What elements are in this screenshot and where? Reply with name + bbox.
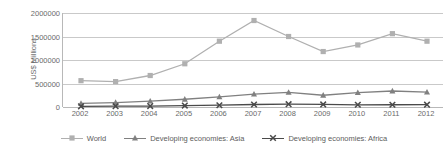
x-axis-tick-label: 2011 <box>383 109 399 118</box>
data-point-marker <box>132 135 138 141</box>
data-point-marker <box>390 31 395 36</box>
legend-item[interactable]: Developing economies: Africa <box>262 134 387 143</box>
x-axis-tick-label: 2002 <box>72 109 89 118</box>
data-point-marker <box>271 135 277 141</box>
data-point-marker <box>182 61 187 66</box>
x-axis-tick-label: 2005 <box>175 109 192 118</box>
legend-marker-triangle-icon <box>124 134 146 143</box>
data-point-marker <box>286 34 291 39</box>
x-axis-tick-label: 2007 <box>245 109 262 118</box>
data-point-marker <box>148 73 153 78</box>
y-axis-tick-label: 1000000 <box>12 56 60 65</box>
x-axis-tick-label: 2006 <box>210 109 227 118</box>
chart-legend: WorldDeveloping economies: AsiaDevelopin… <box>0 130 448 146</box>
data-point-marker <box>321 49 326 54</box>
data-point-marker <box>355 42 360 47</box>
legend-item[interactable]: Developing economies: Asia <box>124 134 244 143</box>
plot-svg <box>63 13 443 107</box>
legend-marker-square-icon <box>61 134 83 143</box>
data-point-marker <box>251 18 256 23</box>
plot-area <box>62 13 442 107</box>
legend-label: World <box>87 134 106 143</box>
x-axis-tick-label: 2010 <box>348 109 365 118</box>
data-point-marker <box>113 79 118 84</box>
data-point-marker <box>78 78 83 83</box>
x-axis-tick-label: 2008 <box>279 109 296 118</box>
legend-label: Developing economies: Africa <box>288 134 387 143</box>
y-axis-tick-labels: 0500000100000015000002000000 <box>12 0 60 150</box>
x-axis-tick-label: 2009 <box>314 109 331 118</box>
x-axis-tick-label: 2004 <box>141 109 158 118</box>
data-point-marker <box>69 135 74 140</box>
legend-marker-x-icon <box>262 134 284 143</box>
line-chart: US$ Millions 050000010000001500000200000… <box>0 0 448 150</box>
legend-item[interactable]: World <box>61 134 106 143</box>
data-point-marker <box>217 39 222 44</box>
y-axis-tick-label: 2000000 <box>12 9 60 18</box>
series-line <box>81 21 427 82</box>
y-axis-tick-label: 0 <box>12 103 60 112</box>
y-axis-tick-label: 1500000 <box>12 32 60 41</box>
gridline <box>63 107 443 108</box>
x-axis-tick-label: 2012 <box>418 109 435 118</box>
y-axis-tick-label: 500000 <box>12 79 60 88</box>
legend-label: Developing economies: Asia <box>150 134 244 143</box>
data-point-marker <box>424 39 429 44</box>
x-axis-tick-label: 2003 <box>106 109 123 118</box>
x-axis-tick-labels: 2002200320042005200620072008200920102011… <box>62 109 442 123</box>
